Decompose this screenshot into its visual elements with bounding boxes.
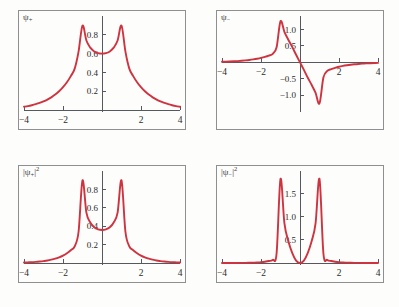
plot-psi-plus-squared: −4−2240.20.40.60.8 — [18, 165, 186, 283]
panel-label-psi-plus: ψ+ — [23, 13, 32, 22]
svg-text:4: 4 — [376, 67, 381, 77]
svg-text:2: 2 — [139, 268, 144, 278]
label-subscript: − — [228, 171, 232, 178]
svg-text:−2: −2 — [256, 67, 266, 77]
label-subscript: + — [30, 171, 34, 178]
svg-text:−1.0: −1.0 — [280, 90, 297, 100]
label-symbol: ψ — [221, 12, 227, 22]
svg-text:4: 4 — [178, 268, 183, 278]
svg-text:−0.5: −0.5 — [280, 74, 297, 84]
label-superscript: 2 — [36, 165, 39, 172]
svg-text:−2: −2 — [58, 268, 68, 278]
plot-psi-minus-squared: −4−2240.51.01.5 — [216, 165, 384, 283]
label-superscript: 2 — [234, 165, 237, 172]
svg-text:−2: −2 — [58, 115, 68, 125]
label-subscript: + — [29, 16, 33, 23]
svg-text:−4: −4 — [217, 67, 227, 77]
svg-text:−2: −2 — [256, 268, 266, 278]
svg-text:−4: −4 — [19, 115, 29, 125]
svg-text:0.4: 0.4 — [87, 68, 99, 78]
svg-text:0.2: 0.2 — [87, 240, 98, 250]
svg-text:1.5: 1.5 — [285, 189, 297, 199]
svg-text:0.2: 0.2 — [87, 86, 98, 96]
label-subscript: − — [227, 16, 231, 23]
svg-text:0.8: 0.8 — [87, 185, 99, 195]
svg-text:4: 4 — [376, 268, 381, 278]
svg-text:0.6: 0.6 — [87, 203, 99, 213]
panel-psi-minus: ψ− −4−224−1.0−0.50.51.0 — [216, 10, 384, 130]
svg-text:2: 2 — [337, 268, 342, 278]
panel-label-psi-minus-squared: |ψ−|2 — [221, 168, 237, 177]
panel-label-psi-plus-squared: |ψ+|2 — [23, 168, 39, 177]
panel-label-psi-minus: ψ− — [221, 13, 230, 22]
panel-psi-plus: ψ+ −4−2240.20.40.60.8 — [18, 10, 186, 130]
svg-text:−4: −4 — [19, 268, 29, 278]
svg-text:2: 2 — [139, 115, 144, 125]
svg-text:1.0: 1.0 — [285, 25, 297, 35]
panel-psi-plus-squared: |ψ+|2 −4−2240.20.40.60.8 — [18, 165, 186, 283]
wavefunction-figure: ψ+ −4−2240.20.40.60.8 ψ− −4−224−1.0−0.50… — [0, 0, 399, 307]
svg-text:2: 2 — [337, 67, 342, 77]
svg-text:−4: −4 — [217, 268, 227, 278]
svg-text:4: 4 — [178, 115, 183, 125]
panel-psi-minus-squared: |ψ−|2 −4−2240.51.01.5 — [216, 165, 384, 283]
label-symbol: ψ — [23, 12, 29, 22]
svg-text:0.8: 0.8 — [87, 30, 99, 40]
plot-psi-minus: −4−224−1.0−0.50.51.0 — [216, 10, 384, 130]
plot-psi-plus: −4−2240.20.40.60.8 — [18, 10, 186, 130]
svg-text:1.0: 1.0 — [285, 212, 297, 222]
